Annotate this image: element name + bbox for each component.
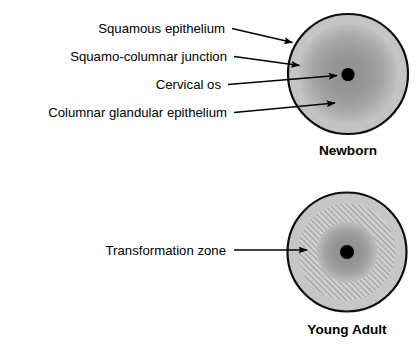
callout-squamous-epithelium xyxy=(232,29,293,43)
label-squamous-epithelium: Squamous epithelium xyxy=(98,21,225,36)
young-adult-cervical-os-dot xyxy=(340,245,354,259)
label-transformation-zone: Transformation zone xyxy=(106,243,226,258)
panel-newborn: Squamous epithelium Squamo-columnar junc… xyxy=(48,14,408,158)
label-cervical-os: Cervical os xyxy=(156,77,222,92)
cervix-transformation-zone-figure: Squamous epithelium Squamo-columnar junc… xyxy=(0,0,420,348)
newborn-cervical-os-dot xyxy=(341,68,354,81)
diagram-canvas: Squamous epithelium Squamo-columnar junc… xyxy=(0,0,420,348)
leader-line-squamous-epithelium xyxy=(232,29,293,43)
caption-young-adult: Young Adult xyxy=(307,322,387,337)
panel-young-adult: Transformation zone Young Adult xyxy=(106,193,407,338)
label-columnar-glandular-epithelium: Columnar glandular epithelium xyxy=(48,105,227,120)
label-squamo-columnar-junction: Squamo-columnar junction xyxy=(70,49,227,64)
caption-newborn: Newborn xyxy=(319,143,377,158)
